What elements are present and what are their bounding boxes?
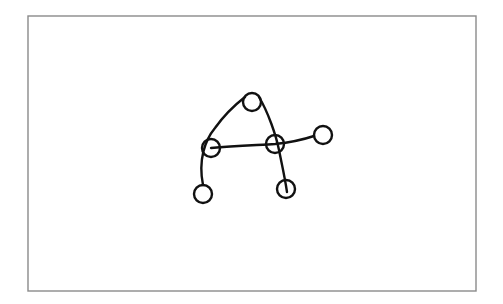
node-n-left-mid <box>202 139 220 157</box>
node-n-right-mid <box>266 135 284 153</box>
node-n-bottom-left <box>194 185 212 203</box>
diagram-frame <box>28 16 476 291</box>
node-n-far-right <box>314 126 332 144</box>
node-n-top <box>243 93 261 111</box>
diagram-canvas <box>0 0 503 304</box>
edge-e-crossbar <box>211 136 314 148</box>
node-n-bottom-right <box>277 180 295 198</box>
nodes-group <box>194 93 332 203</box>
